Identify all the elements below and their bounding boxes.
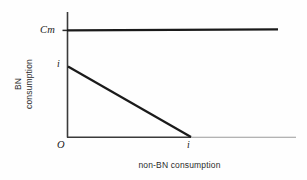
y-axis-title-line2: consumption: [24, 59, 35, 109]
x-axis-title: non-BN consumption: [0, 160, 307, 171]
y-axis-title: BN consumption: [9, 36, 39, 132]
label-origin: O: [57, 139, 65, 150]
budget-constraint-line: [68, 67, 191, 138]
label-cm: Cm: [40, 24, 55, 35]
y-axis-title-line1: BN: [13, 59, 24, 109]
label-i-vertical-intercept: i: [57, 58, 60, 69]
label-i-horizontal-intercept: i: [187, 139, 190, 150]
figure-container: BN consumption non-BN consumption Cm i O…: [0, 0, 307, 180]
cm-ceiling-line: [67, 29, 278, 30]
